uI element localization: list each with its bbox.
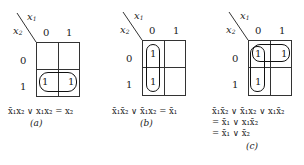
grouping-loop: [39, 72, 77, 92]
column-header-1: 1: [66, 28, 72, 38]
karnaugh-map-b: x1 x2 0 1 0 1 1 1 x̄₁x̄₂ ∨ x̄₁x₂ = x̄₁ (…: [106, 0, 206, 165]
grid-divider: [164, 41, 165, 95]
expression: x̄₁x̄₂ ∨ x̄₁x₂ = x̄₁: [112, 106, 177, 116]
grouping-loop-column: [250, 46, 265, 92]
map-grid: 1 1: [36, 42, 80, 97]
column-header-1: 1: [279, 26, 285, 36]
row-header-0: 0: [126, 54, 132, 64]
column-header-0: 0: [255, 26, 261, 36]
row-header-0: 0: [20, 56, 26, 66]
expression-line-1: x̄₁x̄₂ ∨ x̄₁x₂ ∨ x₁x̄₂: [212, 106, 284, 116]
expression-line-2: = x̄₁ ∨ x₁x̄₂: [212, 117, 258, 127]
row-variable-label: x2: [120, 25, 129, 37]
row-header-1: 1: [126, 80, 132, 90]
map-grid: 1 1 1: [248, 40, 292, 96]
map-grid: 1 1: [142, 40, 186, 96]
expression: x̄₁x₂ ∨ x₁x₂ = x₂: [8, 106, 73, 116]
grouping-loop: [146, 44, 160, 92]
row-header-0: 0: [232, 54, 238, 64]
column-variable-label: x1: [27, 12, 36, 24]
column-variable-label: x1: [240, 11, 249, 23]
column-header-0: 0: [43, 28, 49, 38]
column-variable-label: x1: [134, 11, 143, 23]
row-header-1: 1: [232, 80, 238, 90]
grid-divider: [37, 69, 79, 70]
expression-line-3: = x̄₁ ∨ x̄₂: [212, 128, 250, 138]
karnaugh-map-c: x1 x2 0 1 0 1 1 1 1 x̄₁x̄₂ ∨ x̄₁x₂ ∨ x₁x…: [212, 0, 304, 165]
row-variable-label: x2: [226, 25, 235, 37]
row-header-1: 1: [20, 82, 26, 92]
caption: (b): [140, 118, 153, 128]
column-header-0: 0: [149, 26, 155, 36]
caption: (c): [246, 141, 258, 151]
caption: (a): [30, 118, 42, 128]
column-header-1: 1: [173, 26, 179, 36]
row-variable-label: x2: [13, 26, 22, 38]
karnaugh-map-a: x1 x2 0 1 0 1 1 1 x̄₁x₂ ∨ x₁x₂ = x₂ (a): [0, 0, 110, 165]
